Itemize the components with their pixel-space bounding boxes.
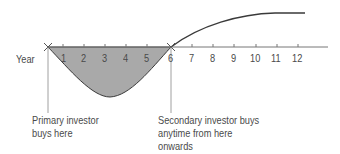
tick-label: 1	[61, 52, 66, 64]
tick-label: 5	[144, 52, 149, 64]
negative-cashflow-area	[48, 47, 171, 97]
tick-label: 4	[123, 52, 128, 64]
tick-label: 12	[292, 52, 302, 64]
tick-label: 3	[102, 52, 107, 64]
value-growth-curve	[171, 13, 305, 47]
tick-label: 8	[210, 52, 215, 64]
tick-label: 7	[189, 52, 194, 64]
tick-label: 11	[271, 52, 281, 64]
tick-label: 2	[81, 52, 86, 64]
tick-label: 10	[250, 52, 260, 64]
tick-label: 6	[168, 52, 173, 64]
tick-label: 9	[231, 52, 236, 64]
axis-label: Year	[16, 53, 35, 65]
